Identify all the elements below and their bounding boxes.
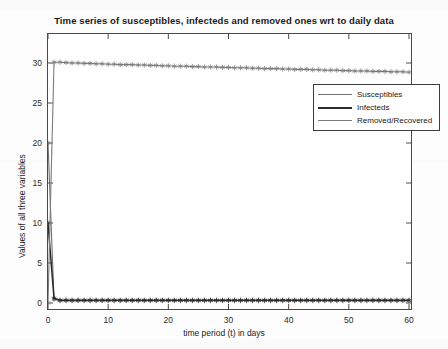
x-tick-label: 0 <box>36 315 60 325</box>
scan-noise-band <box>0 0 448 10</box>
x-tick-label: 60 <box>397 315 421 325</box>
legend-label-susceptibles: Susceptibles <box>357 90 402 99</box>
figure-canvas: Time series of susceptibles, infecteds a… <box>0 0 448 349</box>
legend-item-infecteds: Infecteds <box>314 101 439 114</box>
legend-item-removed-recovered: Removed/Recovered <box>314 114 439 127</box>
legend-label-removed-recovered: Removed/Recovered <box>357 116 432 125</box>
x-axis-title: time period (t) in days <box>0 328 448 338</box>
chart-legend: Susceptibles Infecteds Removed/Recovered <box>313 84 440 131</box>
y-tick-label: 30 <box>24 58 42 68</box>
legend-swatch-infecteds <box>318 102 352 113</box>
y-tick-label: 5 <box>24 258 42 268</box>
plot-area <box>47 33 412 310</box>
scan-noise-band <box>0 339 448 349</box>
y-tick-label: 15 <box>24 178 42 188</box>
legend-label-infecteds: Infecteds <box>357 103 389 112</box>
series-canvas <box>48 34 411 309</box>
y-axis-title: Values of all three variables <box>17 154 27 258</box>
y-tick-label: 10 <box>24 218 42 228</box>
x-tick-label: 50 <box>337 315 361 325</box>
star-marker-icon <box>333 104 338 111</box>
star-marker-icon <box>333 117 338 124</box>
y-tick-label: 25 <box>24 98 42 108</box>
legend-swatch-removed-recovered <box>318 115 352 126</box>
x-tick-label: 10 <box>96 315 120 325</box>
legend-item-susceptibles: Susceptibles <box>314 88 439 101</box>
y-tick-label: 20 <box>24 138 42 148</box>
x-tick-label: 40 <box>277 315 301 325</box>
star-marker-icon <box>333 91 338 98</box>
series-infecteds <box>48 223 409 300</box>
x-tick-label: 30 <box>217 315 241 325</box>
series-susceptibles <box>48 143 409 301</box>
chart-title: Time series of susceptibles, infecteds a… <box>0 15 448 26</box>
y-tick-label: 0 <box>24 298 42 308</box>
legend-swatch-susceptibles <box>318 89 352 100</box>
x-tick-label: 20 <box>156 315 180 325</box>
